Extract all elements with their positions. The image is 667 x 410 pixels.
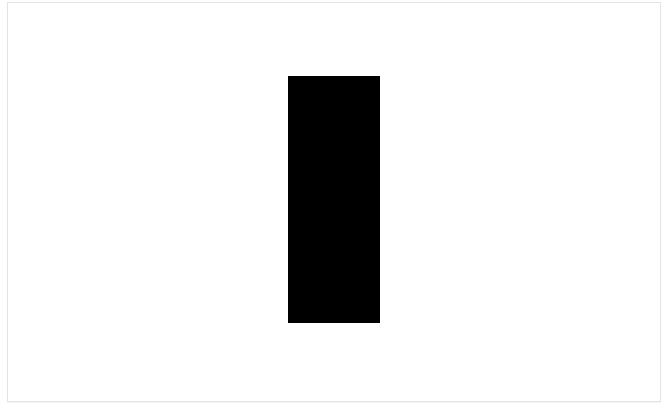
black-rectangle [288,76,380,323]
canvas [0,0,667,410]
